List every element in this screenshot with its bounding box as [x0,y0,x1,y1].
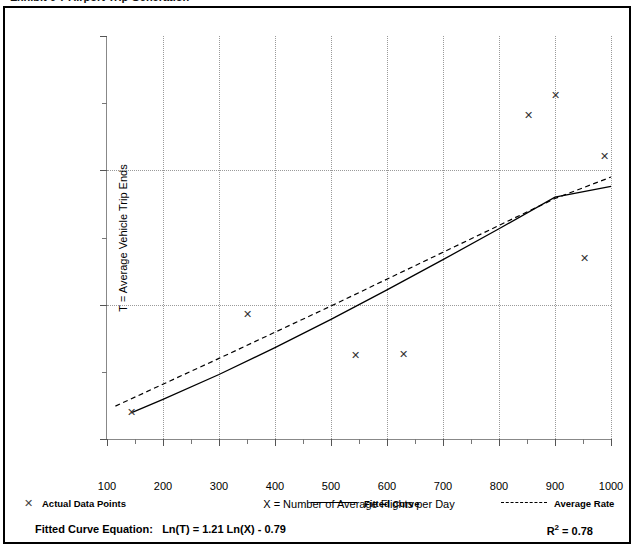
equation-label: Fitted Curve Equation: [35,523,153,535]
r-squared-symbol: R [547,525,555,537]
x-tick-minor [191,439,192,444]
x-tick-minor [247,439,248,444]
x-tick [499,439,500,446]
legend-item: Average Rate [501,495,614,511]
data-point-marker: ✕ [242,309,253,320]
x-tick-minor [471,439,472,444]
x-tick-minor [583,439,584,444]
x-tick-minor [359,439,360,444]
x-tick-label: 900 [546,480,564,492]
x-tick-minor [135,439,136,444]
x-tick-label: 700 [434,480,452,492]
data-point-marker: ✕ [579,253,590,264]
x-tick [219,439,220,446]
series-lines [107,36,611,439]
data-point-marker: ✕ [126,407,137,418]
x-tick-label: 100 [98,480,116,492]
fitted-curve-equation: Fitted Curve Equation: Ln(T) = 1.21 Ln(X… [35,523,286,535]
x-tick [611,439,612,446]
x-tick-label: 800 [490,480,508,492]
y-tick [100,36,107,37]
data-point-marker: ✕ [350,350,361,361]
x-tick-label: 300 [210,480,228,492]
x-tick [331,439,332,446]
clipped-top-caption: Exhibit 6-7 Airport Trip Generation [10,0,280,3]
data-point-marker: ✕ [550,90,561,101]
x-tick [163,439,164,446]
x-tick-label: 1000 [599,480,623,492]
x-tick-label: 400 [266,480,284,492]
legend-label: Actual Data Points [42,498,126,509]
legend-item: ✕Actual Data Points [21,495,126,511]
figure-frame: T = Average Vehicle Trip Ends X = Number… [3,6,631,544]
x-tick [555,439,556,446]
data-point-marker: ✕ [398,349,409,360]
x-tick-label: 500 [322,480,340,492]
x-tick-minor [303,439,304,444]
r-squared-number: = 0.78 [559,525,593,537]
legend-line-icon [311,498,357,508]
data-point-marker: ✕ [523,110,534,121]
legend-line-icon [501,498,547,508]
r-squared-value: R2 = 0.78 [547,523,593,537]
y-tick [100,170,107,171]
x-tick [275,439,276,446]
plot-area: T = Average Vehicle Trip Ends X = Number… [106,36,611,440]
equation-expression: Ln(T) = 1.21 Ln(X) - 0.79 [162,523,286,535]
chart-footer: Fitted Curve Equation: Ln(T) = 1.21 Ln(X… [35,523,615,541]
x-tick-minor [527,439,528,444]
legend-label: Fitted Curve [364,498,419,509]
average-rate-line [115,177,611,406]
x-tick-minor [415,439,416,444]
x-tick-label: 200 [154,480,172,492]
x-tick [107,439,108,446]
x-tick-label: 600 [378,480,396,492]
legend-label: Average Rate [554,498,614,509]
y-tick [100,439,107,440]
legend-item: Fitted Curve [311,495,419,511]
fitted-curve-line [131,186,611,412]
x-tick [387,439,388,446]
data-point-marker: ✕ [599,151,610,162]
legend-cross-icon: ✕ [21,498,35,508]
y-tick [100,305,107,306]
chart-legend: ✕Actual Data PointsFitted CurveAverage R… [21,495,617,511]
x-tick [443,439,444,446]
gridline-vertical [611,36,612,439]
